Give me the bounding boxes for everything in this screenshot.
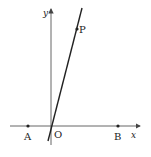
coordinate-diagram: A B P O x y — [0, 0, 151, 157]
point-B — [116, 124, 119, 127]
point-A — [26, 124, 29, 127]
label-B: B — [114, 131, 121, 142]
label-P: P — [79, 24, 86, 35]
label-origin: O — [54, 129, 62, 140]
label-x-axis: x — [131, 130, 136, 140]
label-y-axis: y — [42, 8, 49, 18]
label-A: A — [23, 131, 32, 142]
